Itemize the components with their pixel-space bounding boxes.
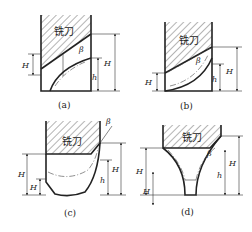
milling-cutter-figure: 铣刀 β H H h (a) 铣刀 β H H h (b) [0, 0, 252, 232]
svg-text:H: H [225, 67, 234, 76]
svg-text:H: H [103, 59, 112, 68]
svg-text:铣刀: 铣刀 [182, 131, 202, 143]
panel-d: 铣刀 β H H H h (d) [135, 125, 243, 217]
cutter-label: 铣刀 [54, 25, 74, 37]
panel-b: 铣刀 β H H h (b) [144, 22, 242, 111]
svg-text:H: H [111, 165, 120, 174]
svg-text:H: H [228, 159, 237, 168]
svg-text:铣刀: 铣刀 [62, 135, 82, 147]
svg-text:β: β [195, 56, 201, 65]
beta-label: β [78, 45, 84, 54]
svg-text:(d): (d) [181, 207, 194, 217]
svg-text:β: β [105, 117, 111, 126]
svg-text:H: H [144, 78, 153, 87]
svg-text:H: H [21, 61, 30, 70]
caption-a: (a) [58, 100, 70, 110]
svg-text:β: β [206, 149, 212, 158]
svg-text:h: h [212, 75, 217, 84]
svg-text:铣刀: 铣刀 [179, 34, 199, 46]
svg-text:H: H [17, 170, 26, 179]
svg-text:h: h [92, 73, 97, 82]
svg-text:H: H [29, 183, 38, 192]
svg-text:(b): (b) [180, 101, 193, 111]
svg-text:H: H [135, 167, 144, 176]
svg-text:h: h [217, 171, 222, 180]
svg-text:h: h [100, 176, 105, 185]
svg-text:(c): (c) [64, 208, 76, 218]
panel-a: 铣刀 β H H h (a) [21, 15, 120, 110]
svg-text:H: H [142, 187, 151, 196]
panel-c: β 铣刀 H H H h (c) [17, 117, 126, 218]
